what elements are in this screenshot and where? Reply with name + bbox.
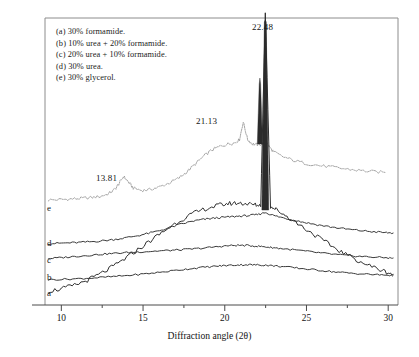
curve-label-e: e (47, 203, 51, 213)
x-tick-label: 25 (302, 313, 311, 323)
legend-item-a: (a) 30% formamide. (56, 26, 236, 38)
x-tick-label: 30 (384, 313, 393, 323)
legend-item-e: (e) 30% glycerol. (56, 72, 236, 84)
curve-label-c: c (47, 255, 51, 265)
x-tick-label: 10 (57, 313, 66, 323)
x-tick-label: 15 (138, 313, 147, 323)
peak-label-13-81: 13.81 (96, 173, 117, 183)
legend: (a) 30% formamide. (b) 10% urea + 20% fo… (56, 26, 236, 84)
curve-label-a: a (47, 288, 51, 298)
curve-label-b: b (47, 272, 52, 282)
peak-label-21-13: 21.13 (196, 116, 217, 126)
legend-item-b: (b) 10% urea + 20% formamide. (56, 38, 236, 50)
legend-item-d: (d) 30% urea. (56, 61, 236, 73)
x-tick-label: 20 (220, 313, 229, 323)
xrd-diffractogram-figure: (a) 30% formamide. (b) 10% urea + 20% fo… (0, 0, 419, 357)
x-axis-title: Diffraction angle (2θ) (0, 330, 419, 341)
curve-label-d: d (47, 238, 52, 248)
legend-item-c: (c) 20% urea + 10% formamide. (56, 49, 236, 61)
peak-label-22-48: 22.48 (252, 22, 273, 32)
